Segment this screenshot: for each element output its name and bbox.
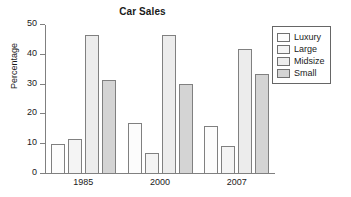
bar-small-2007 bbox=[255, 74, 269, 174]
y-axis-tick: 20 bbox=[40, 113, 45, 114]
x-axis-tick-label: 2007 bbox=[227, 177, 247, 187]
y-axis-tick: 30 bbox=[40, 84, 45, 85]
chart-legend: LuxuryLargeMidsizeSmall bbox=[272, 26, 331, 84]
bar-large-1985 bbox=[68, 139, 82, 174]
legend-item-small[interactable]: Small bbox=[277, 67, 325, 79]
legend-swatch-icon bbox=[277, 45, 290, 54]
legend-swatch-icon bbox=[277, 57, 290, 66]
y-axis-tick-label: 30 bbox=[27, 78, 37, 88]
bar-large-2000 bbox=[145, 153, 159, 174]
y-axis-tick-label: 20 bbox=[27, 107, 37, 117]
legend-item-label: Midsize bbox=[294, 56, 325, 67]
y-axis-tick-label: 40 bbox=[27, 48, 37, 58]
y-axis-tick: 0 bbox=[40, 173, 45, 174]
bar-luxury-1985 bbox=[51, 144, 65, 174]
legend-item-midsize[interactable]: Midsize bbox=[277, 55, 325, 67]
legend-swatch-icon bbox=[277, 33, 290, 42]
y-axis-line bbox=[45, 25, 46, 174]
legend-item-large[interactable]: Large bbox=[277, 43, 325, 55]
y-axis-tick-label: 10 bbox=[27, 137, 37, 147]
x-axis-tick-label: 1985 bbox=[73, 177, 93, 187]
y-axis-label: Percentage bbox=[9, 21, 19, 111]
bar-luxury-2007 bbox=[204, 126, 218, 174]
legend-item-luxury[interactable]: Luxury bbox=[277, 31, 325, 43]
y-axis-tick-label: 0 bbox=[32, 167, 37, 177]
car-sales-bar-chart: Car Sales Percentage 01020304050 1985200… bbox=[0, 0, 351, 197]
legend-item-label: Large bbox=[294, 44, 317, 55]
y-axis-tick-label: 50 bbox=[27, 18, 37, 28]
y-axis-tick: 10 bbox=[40, 143, 45, 144]
legend-item-label: Luxury bbox=[294, 32, 321, 43]
x-axis-tick-label: 2000 bbox=[150, 177, 170, 187]
bar-midsize-1985 bbox=[85, 35, 99, 174]
bar-large-2007 bbox=[221, 146, 235, 174]
bar-midsize-2007 bbox=[238, 49, 252, 174]
plot-area: 01020304050 198520002007 bbox=[45, 25, 275, 174]
y-axis-tick: 50 bbox=[40, 24, 45, 25]
chart-title: Car Sales bbox=[0, 6, 285, 17]
y-axis-tick: 40 bbox=[40, 54, 45, 55]
bar-luxury-2000 bbox=[128, 123, 142, 174]
bar-small-1985 bbox=[102, 80, 116, 174]
legend-item-label: Small bbox=[294, 68, 317, 79]
legend-swatch-icon bbox=[277, 69, 290, 78]
bar-midsize-2000 bbox=[162, 35, 176, 174]
bar-small-2000 bbox=[179, 84, 193, 174]
